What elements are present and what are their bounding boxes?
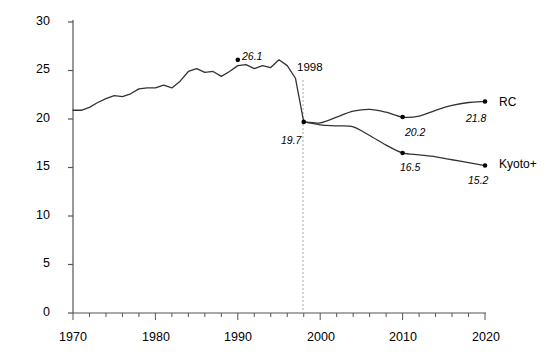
data-point-markers <box>236 58 488 168</box>
axes-group <box>68 20 486 320</box>
series-path-kyoto <box>304 122 485 166</box>
data-point-marker-21-8 <box>483 99 488 104</box>
plot-area <box>0 0 557 364</box>
series-paths <box>73 60 485 166</box>
data-point-marker-26-1 <box>236 58 241 63</box>
series-path-historic <box>73 60 304 122</box>
data-point-marker-20-2 <box>400 115 405 120</box>
data-point-marker-16-5 <box>400 151 405 156</box>
y-axis-major-ticks <box>68 22 73 313</box>
data-point-marker-19-7 <box>301 120 306 125</box>
x-axis-ticks <box>73 313 485 320</box>
series-path-rc <box>304 102 485 124</box>
data-point-marker-15-2 <box>483 163 488 168</box>
carbon-emissions-line-chart: Carbon emissions (MtC) 30 25 20 15 10 5 … <box>0 0 557 364</box>
